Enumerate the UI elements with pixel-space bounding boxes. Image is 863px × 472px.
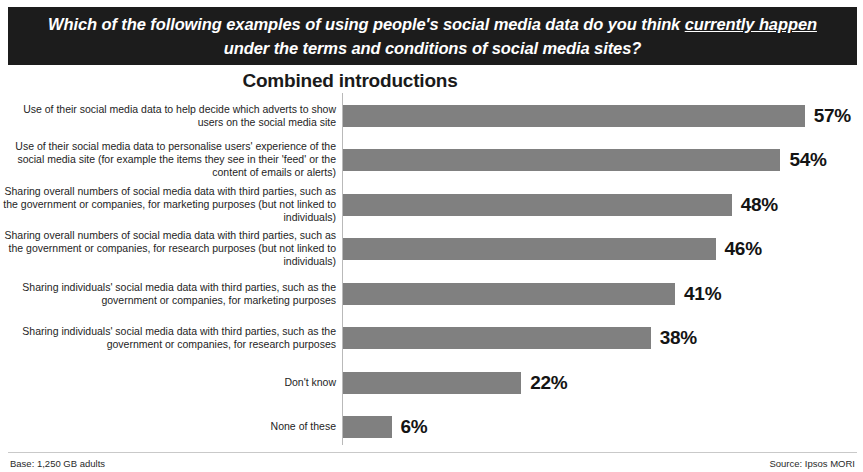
bar-value-label: 22% [530,372,567,394]
bar-category-label: Sharing overall numbers of social media … [2,185,338,225]
bar-and-value: 22% [343,372,567,394]
bar-category-label: Use of their social media data to person… [2,140,338,180]
bar-category-label: Sharing individuals' social media data w… [2,325,338,351]
bar-row: Sharing individuals' social media data w… [0,271,863,316]
bar-row: Use of their social media data to person… [0,138,863,183]
bar [343,416,392,438]
bar-and-value: 38% [343,327,697,349]
bar-row: Sharing overall numbers of social media … [0,227,863,272]
bar-and-value: 48% [343,194,778,216]
bar-and-value: 57% [343,105,851,127]
bar-chart: Use of their social media data to help d… [0,93,863,448]
question-banner: Which of the following examples of using… [8,7,857,65]
bar-row: Use of their social media data to help d… [0,93,863,138]
bar-row: Sharing individuals' social media data w… [0,316,863,361]
footer-divider [8,452,857,453]
bar-category-label: Sharing individuals' social media data w… [2,280,338,306]
bar-and-value: 6% [343,416,427,438]
footer-base-text: Base: 1,250 GB adults [10,458,105,469]
bar-value-label: 54% [789,149,826,171]
bar [343,105,805,127]
slide-root: Which of the following examples of using… [0,0,863,472]
bar-row: None of these6% [0,405,863,450]
chart-title: Combined introductions [0,70,700,92]
bar-value-label: 41% [684,283,721,305]
question-text-emphasis: currently happen [685,15,817,33]
bar [343,238,716,260]
bar-and-value: 41% [343,283,721,305]
bar-value-label: 46% [725,238,762,260]
footer-source-text: Source: Ipsos MORI [769,458,855,469]
bar-value-label: 48% [741,194,778,216]
bar [343,194,732,216]
bar [343,372,521,394]
bar-value-label: 57% [814,105,851,127]
bar-row: Sharing overall numbers of social media … [0,182,863,227]
bar-category-label: Use of their social media data to help d… [2,102,338,128]
bar-value-label: 6% [401,416,428,438]
question-text-part-2: under the terms and conditions of social… [224,39,641,57]
bar-category-label: None of these [2,420,338,433]
bar-and-value: 54% [343,149,827,171]
question-text: Which of the following examples of using… [8,12,857,60]
bar-category-label: Sharing overall numbers of social media … [2,229,338,269]
bar-value-label: 38% [660,327,697,349]
bar [343,327,651,349]
bar-row: Don't know22% [0,360,863,405]
question-text-part-1: Which of the following examples of using… [48,15,685,33]
bar-and-value: 46% [343,238,762,260]
bar-category-label: Don't know [2,376,338,389]
bar [343,149,780,171]
bar [343,283,675,305]
